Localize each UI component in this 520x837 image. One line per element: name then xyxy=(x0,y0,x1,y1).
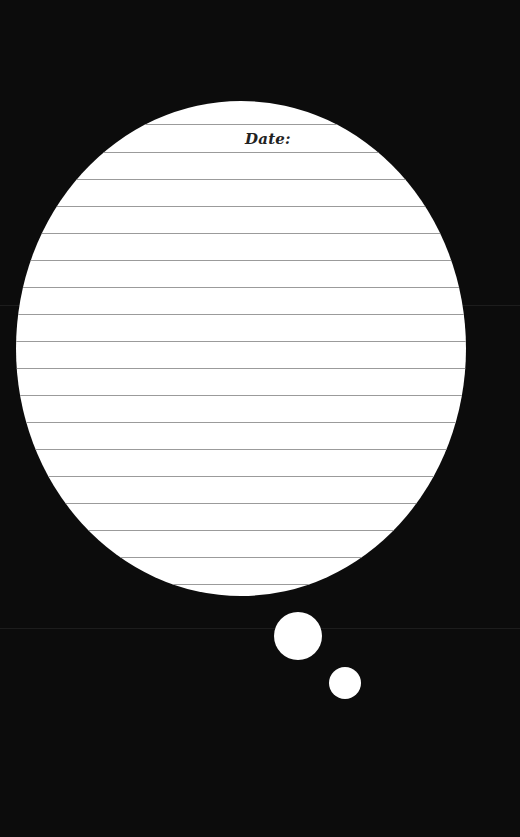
ruled-line xyxy=(16,395,466,396)
ruled-line xyxy=(16,152,466,153)
ruled-line xyxy=(16,503,466,504)
ruled-line xyxy=(16,206,466,207)
thought-trail-dot-small xyxy=(329,667,361,699)
ruled-line xyxy=(16,341,466,342)
ruled-line xyxy=(16,368,466,369)
ruled-line xyxy=(16,476,466,477)
ruled-line xyxy=(16,422,466,423)
ruled-line xyxy=(16,179,466,180)
ruled-line xyxy=(16,557,466,558)
ruled-line xyxy=(16,124,466,125)
thought-bubble-notepad: Date: xyxy=(16,101,466,596)
ruled-line xyxy=(16,287,466,288)
ruled-line xyxy=(16,449,466,450)
ruled-line xyxy=(16,530,466,531)
ruled-line xyxy=(16,233,466,234)
ruled-line xyxy=(16,260,466,261)
date-label: Date: xyxy=(245,130,291,148)
ruled-line xyxy=(16,584,466,585)
ruled-line xyxy=(16,314,466,315)
thought-trail-dot-large xyxy=(274,612,322,660)
background-streak xyxy=(0,628,520,629)
